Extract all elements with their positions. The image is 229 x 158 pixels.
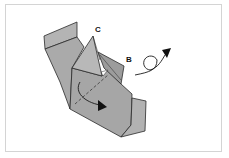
turn-over-arrow-icon	[135, 55, 165, 75]
origami-diagram	[0, 0, 229, 158]
label-c: C	[95, 25, 101, 34]
turn-over-arrowhead-icon	[162, 48, 171, 58]
label-b: B	[126, 55, 132, 64]
